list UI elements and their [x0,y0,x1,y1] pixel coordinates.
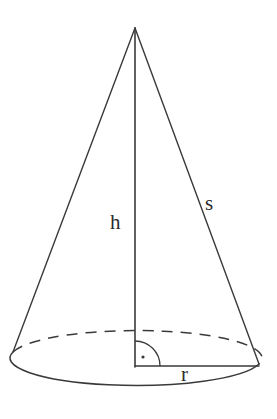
right-angle-arc-icon [135,341,160,366]
slant-height-label: s [205,193,213,214]
radius-label: r [181,364,188,385]
cone-left-slant-line [13,28,135,352]
cone-figure: h s r [0,0,277,419]
cone-drawing [0,0,277,419]
cone-right-slant-line [135,28,259,364]
height-label: h [110,212,121,233]
right-angle-dot-icon [141,355,144,358]
base-ellipse-back-arc [13,331,262,364]
